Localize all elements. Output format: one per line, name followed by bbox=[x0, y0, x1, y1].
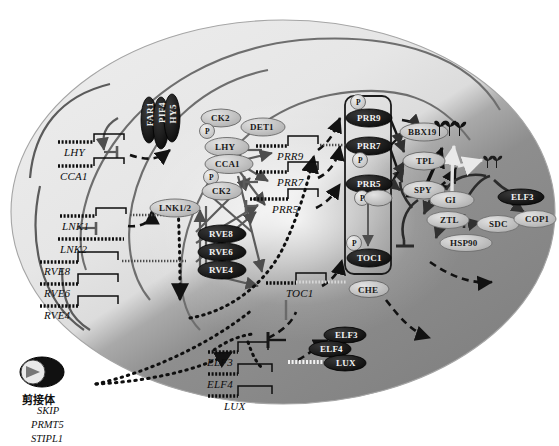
gene-label-toc1: TOC1 bbox=[286, 288, 314, 299]
protein-label-tpl: TPL bbox=[416, 156, 434, 166]
gene-label-lnk2: LNK2 bbox=[60, 244, 87, 255]
figure-canvas: FAR1 PIF4 HY5 CK2 P LHY CCA1 P CK2 DET1 … bbox=[0, 0, 559, 446]
protein-label-elf3-night: ELF3 bbox=[511, 192, 534, 202]
protein-label-lnk12: LNK1/2 bbox=[159, 203, 191, 213]
gene-label-prr5: PRR5 bbox=[272, 204, 298, 215]
protein-label-toc1: TOC1 bbox=[357, 253, 382, 263]
spliceosome-icon bbox=[20, 357, 64, 387]
phospho-label-lhy: P bbox=[205, 127, 210, 136]
protein-label-spy: SPY bbox=[414, 185, 432, 195]
phospho-label-cca1: P bbox=[209, 173, 214, 182]
gene-label-prr9: PRR9 bbox=[277, 151, 303, 162]
protein-label-far1: FAR1 bbox=[145, 102, 155, 126]
protein-label-elf4-ec: ELF4 bbox=[320, 344, 343, 354]
gene-label-rve4: RVE4 bbox=[44, 310, 70, 321]
phospho-label-prr7: P bbox=[358, 156, 363, 165]
protein-label-pif4: PIF4 bbox=[157, 102, 167, 123]
protein-label-rve4: RVE4 bbox=[209, 265, 233, 275]
protein-label-hy5: HY5 bbox=[168, 104, 178, 124]
spliceosome-component-skip: SKIP bbox=[37, 405, 59, 416]
gene-label-lux: LUX bbox=[224, 401, 245, 412]
protein-label-hsp90: HSP90 bbox=[450, 238, 478, 248]
protein-label-cop1: COP1 bbox=[525, 214, 549, 224]
protein-label-prr7: PRR7 bbox=[357, 141, 381, 151]
spliceosome-component-prmt5: PRMT5 bbox=[31, 419, 64, 430]
protein-label-lux-ec: LUX bbox=[336, 358, 356, 368]
protein-label-ck2-a: CK2 bbox=[211, 113, 230, 123]
protein-label-ck2-b: CK2 bbox=[212, 186, 231, 196]
protein-label-che: CHE bbox=[358, 285, 378, 295]
gene-label-prr7: PRR7 bbox=[277, 177, 303, 188]
phospho-label-toc1: P bbox=[352, 239, 357, 248]
spliceosome-component-stipl1: STIPL1 bbox=[31, 433, 63, 444]
phospho-label-prr5: P bbox=[360, 194, 365, 203]
gene-label-lhy: LHY bbox=[64, 147, 85, 158]
protein-label-rve6: RVE6 bbox=[209, 247, 233, 257]
gene-label-rve6: RVE6 bbox=[44, 288, 70, 299]
protein-label-prr5: PRR5 bbox=[357, 179, 381, 189]
gene-label-lnk1: LNK1 bbox=[62, 221, 89, 232]
phospho-label-prr9: P bbox=[356, 98, 361, 107]
protein-label-gi: GI bbox=[445, 195, 456, 205]
protein-label-bbx19: BBX19 bbox=[408, 127, 437, 137]
gene-label-rve8: RVE8 bbox=[44, 266, 70, 277]
protein-label-prr9: PRR9 bbox=[357, 113, 381, 123]
protein-label-ztl: ZTL bbox=[440, 215, 459, 225]
protein-label-rve8: RVE8 bbox=[209, 229, 233, 239]
protein-label-det1: DET1 bbox=[250, 122, 274, 132]
protein-label-cca1: CCA1 bbox=[215, 159, 240, 169]
gene-label-cca1: CCA1 bbox=[60, 171, 88, 182]
gene-label-elf4: ELF4 bbox=[207, 379, 233, 390]
gene-label-elf3: ELF3 bbox=[207, 357, 233, 368]
protein-label-lhy: LHY bbox=[215, 142, 235, 152]
protein-label-elf3-ec: ELF3 bbox=[335, 330, 358, 340]
protein-label-sdc: SDC bbox=[489, 219, 508, 229]
